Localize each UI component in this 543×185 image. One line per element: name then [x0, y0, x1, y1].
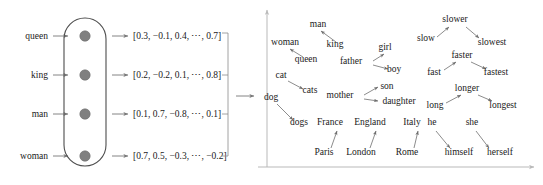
word-cats: cats — [303, 85, 318, 95]
word-italy: Italy — [403, 117, 421, 127]
word-king: king — [327, 39, 344, 49]
node-woman — [80, 151, 90, 161]
word-rome: Rome — [396, 147, 419, 157]
word-cat: cat — [275, 70, 286, 80]
relation-fast-faster — [444, 62, 456, 70]
vector-king: [0.2, −0.2, 0.1, ⋯, 0.8] — [133, 70, 221, 80]
input-word-queen: queen — [25, 31, 48, 41]
word-himself: himself — [445, 147, 474, 157]
word-man: man — [310, 19, 327, 29]
word-slow: slow — [417, 33, 435, 43]
relation-he-himself — [436, 131, 450, 148]
word-girl: girl — [378, 42, 392, 52]
relation-paris-france — [331, 131, 337, 148]
word-paris: Paris — [315, 147, 334, 157]
word-he: he — [428, 117, 437, 127]
embedding-vectors: [0.3, −0.1, 0.4, ⋯, 0.7] [0.2, −0.2, 0.1… — [133, 31, 227, 161]
embedding-nodes — [80, 31, 90, 161]
node-queen — [80, 31, 90, 41]
word-mother: mother — [327, 90, 355, 100]
word-slowest: slowest — [478, 37, 507, 47]
relation-cat-cats — [288, 81, 303, 89]
word-fast: fast — [427, 67, 441, 77]
vector-woman: [0.7, 0.5, −0.3, ⋯, −0.2] — [133, 151, 227, 161]
vector-man: [0.1, 0.7, −0.8, ⋯, 0.1] — [133, 109, 221, 119]
word-boy: boy — [387, 64, 402, 74]
word-faster: faster — [451, 50, 473, 60]
input-flow-arrows — [53, 36, 68, 156]
word-son: son — [380, 81, 393, 91]
vector-grouping-brace — [222, 33, 228, 156]
word-england: England — [354, 117, 386, 127]
right-panel: man woman king queen girl father boy cat… — [258, 10, 534, 167]
node-man — [80, 109, 90, 119]
relation-father-girl — [373, 54, 384, 61]
word-father: father — [340, 56, 363, 66]
word-long: long — [427, 100, 444, 110]
word-longest: longest — [489, 100, 517, 110]
word-fastest: fastest — [484, 67, 509, 77]
input-word-man: man — [32, 109, 49, 119]
node-king — [80, 70, 90, 80]
word-london: London — [346, 147, 376, 157]
relation-mother-son — [364, 87, 378, 95]
relation-london-england — [370, 131, 376, 148]
word-slower: slower — [442, 14, 468, 24]
word-daughter: daughter — [382, 96, 416, 106]
input-word-labels: queen king man woman — [20, 31, 48, 161]
word-woman: woman — [271, 37, 299, 47]
output-flow-arrows — [112, 36, 128, 156]
figure-canvas: queen king man woman — [0, 0, 543, 185]
input-word-woman: woman — [20, 151, 48, 161]
word-she: she — [466, 117, 479, 127]
word-dog: dog — [264, 92, 279, 102]
relation-father-boy — [373, 65, 388, 69]
vector-queen: [0.3, −0.1, 0.4, ⋯, 0.7] — [133, 31, 221, 41]
word-embedding-figure: queen king man woman — [0, 0, 543, 185]
word-queen: queen — [295, 54, 318, 64]
word-longer: longer — [455, 83, 480, 93]
word-dogs: dogs — [290, 117, 308, 127]
input-word-king: king — [31, 70, 48, 80]
relation-she-herself — [476, 131, 489, 148]
relation-slow-slower — [437, 27, 449, 37]
relation-rome-italy — [414, 131, 418, 148]
word-herself: herself — [487, 147, 514, 157]
word-france: France — [317, 117, 343, 127]
brace-outline — [222, 33, 228, 156]
left-panel: queen king man woman — [20, 18, 254, 166]
relation-long-longer — [446, 95, 461, 103]
relation-mother-daughter — [364, 99, 378, 101]
